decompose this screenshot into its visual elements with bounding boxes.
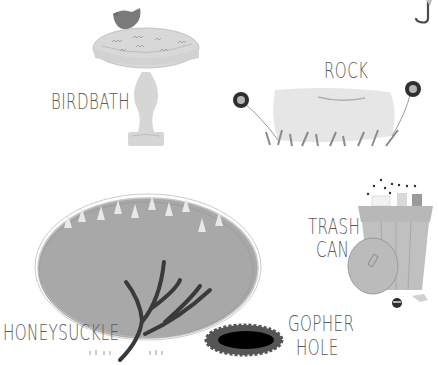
partial-plant-icon: [416, 0, 432, 23]
gopher-hole-label-line2: HOLE: [296, 337, 339, 360]
trash-can-label-line1: TRASH: [308, 216, 360, 239]
trash-can-label-line2: CAN: [316, 239, 349, 262]
gopher-hole-icon: [206, 325, 282, 355]
birdbath-icon: [93, 8, 199, 146]
flower-left-icon: [233, 92, 249, 108]
flower-right-icon: [405, 81, 421, 97]
honeysuckle-label: HONEYSUCKLE: [3, 322, 119, 345]
gopher-hole-label-line1: GOPHER: [288, 313, 354, 336]
birdbath-label: BIRDBATH: [51, 91, 130, 114]
rock-label: ROCK: [324, 60, 368, 83]
rock-icon: [233, 81, 421, 146]
garden-scene: [0, 0, 438, 365]
trash-can-icon: [348, 179, 433, 308]
